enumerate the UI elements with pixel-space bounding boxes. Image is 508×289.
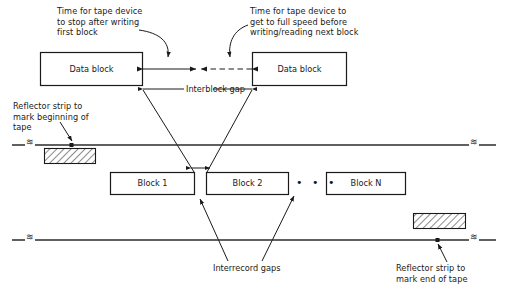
speed-time-line-3: writing/reading next block — [250, 27, 358, 37]
reflector-begin-line-2: mark beginning of — [13, 112, 89, 122]
blocks-ellipsis: • • • — [296, 176, 337, 189]
data-block-left-label: Data block — [40, 64, 143, 74]
gap-projection-lines — [143, 90, 252, 172]
tape-break-upper-right: ≋ — [469, 137, 479, 147]
speed-time-line-2: get to full speed before — [250, 17, 347, 27]
stop-time-leader — [139, 30, 168, 57]
reflector-end-annotation: Reflector strip to mark end of tape — [396, 263, 468, 284]
reflector-begin-line-1: Reflector strip to — [13, 101, 82, 111]
interrecord-gaps-label: Interrecord gaps — [213, 263, 281, 273]
diagram-vector-layer — [0, 0, 508, 289]
interrecord-leader-right — [262, 196, 294, 261]
reflector-strip-begin — [45, 149, 96, 164]
reflector-begin-line-3: tape — [13, 122, 32, 132]
interrecord-leader-left — [200, 199, 228, 261]
reflector-end-line-1: Reflector strip to — [396, 263, 465, 273]
speed-time-leader — [230, 25, 248, 57]
speed-time-annotation: Time for tape device to get to full spee… — [250, 6, 358, 38]
tape-diagram-figure: Time for tape device to stop after writi… — [0, 0, 508, 289]
data-block-right-label: Data block — [252, 64, 347, 74]
speed-time-line-1: Time for tape device to — [250, 6, 346, 16]
stop-time-line-1: Time for tape device — [57, 6, 142, 16]
stop-time-line-3: first block — [57, 27, 98, 37]
tape-break-lower-right: ≋ — [469, 232, 479, 242]
reflector-strip-end — [414, 214, 466, 229]
block-n-label: Block N — [326, 178, 406, 188]
block-2-label: Block 2 — [206, 178, 289, 188]
reflector-begin-annotation: Reflector strip to mark beginning of tap… — [13, 101, 89, 133]
reflector-end-line-2: mark end of tape — [396, 274, 468, 284]
stop-time-line-2: to stop after writing — [57, 17, 139, 27]
reflector-end-leader — [436, 238, 448, 262]
tape-break-lower-left: ≋ — [25, 232, 35, 242]
interblock-gap-label: Interblock gap — [186, 84, 245, 94]
stop-time-annotation: Time for tape device to stop after writi… — [57, 6, 142, 38]
block-1-label: Block 1 — [110, 178, 195, 188]
tape-break-upper-left: ≋ — [25, 137, 35, 147]
